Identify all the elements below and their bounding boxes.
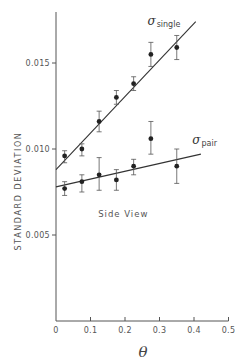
x-tick-label: 0.5	[222, 326, 236, 335]
x-tick-label: 0	[53, 326, 58, 335]
data-point	[174, 45, 179, 50]
y-tick-label: 0.005	[26, 231, 50, 240]
data-point	[62, 186, 67, 191]
data-point	[148, 52, 153, 57]
data-point	[131, 164, 136, 169]
axes: 00.10.20.30.40.50.0050.0100.015	[26, 12, 236, 335]
data-point	[131, 81, 136, 86]
series-label-single: σsingle	[147, 14, 180, 29]
plot-area: 00.10.20.30.40.50.0050.0100.015 σsingleσ…	[0, 0, 248, 363]
fit-line-pair	[56, 154, 201, 187]
data-point	[97, 172, 102, 177]
data-point	[79, 179, 84, 184]
data-point	[114, 95, 119, 100]
x-tick-label: 0.1	[84, 326, 98, 335]
side-view-annotation: Side View	[98, 209, 148, 219]
series-layer: σsingleσpair	[56, 14, 218, 195]
y-tick-label: 0.010	[26, 145, 50, 154]
x-tick-label: 0.4	[187, 326, 201, 335]
x-axis-title: θ	[138, 343, 147, 361]
data-point	[148, 136, 153, 141]
data-point	[79, 147, 84, 152]
series-single: σsingle	[56, 14, 196, 169]
standard-deviation-chart: 00.10.20.30.40.50.0050.0100.015 σsingleσ…	[0, 0, 248, 363]
y-axis-title: STANDARD DEVIATION	[14, 132, 23, 251]
data-point	[174, 164, 179, 169]
x-tick-label: 0.3	[153, 326, 167, 335]
data-point	[62, 153, 67, 158]
data-point	[97, 119, 102, 124]
x-tick-label: 0.2	[118, 326, 132, 335]
series-label-pair: σpair	[192, 133, 217, 148]
y-tick-label: 0.015	[26, 59, 50, 68]
fit-line-single	[56, 22, 196, 170]
data-point	[114, 178, 119, 183]
series-pair: σpair	[56, 121, 218, 195]
